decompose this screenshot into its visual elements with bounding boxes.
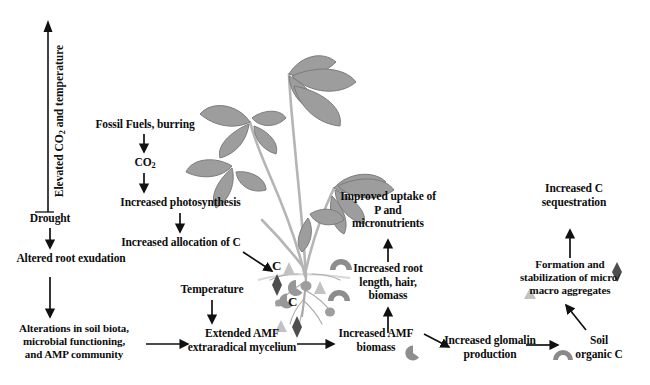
node-increased-root-length: Increased root length, hair, biomass: [344, 262, 432, 303]
node-co2: CO2: [114, 156, 176, 171]
node-soil-organic-c: Soil organic C: [562, 334, 636, 361]
node-temperature: Temperature: [166, 283, 258, 297]
node-formation-stabilization: Formation and stabilization of micro/ ma…: [508, 258, 632, 297]
node-extended-amf: Extended AMF extraradical mycelium: [186, 327, 298, 354]
node-altered-root-exudation: Altered root exudation: [0, 252, 142, 266]
node-increased-c-sequestration: Increased C sequestration: [528, 182, 620, 209]
node-increased-allocation: Increased allocation of C: [92, 236, 270, 250]
node-drought: Drought: [16, 212, 84, 226]
node-fossil-fuels: Fossil Fuels, burring: [76, 118, 214, 132]
figure-canvas: Elevated CO2 and temperature: [0, 0, 650, 385]
node-co2-text: CO: [134, 156, 151, 168]
node-increased-photosynthesis: Increased photosynthesis: [98, 196, 263, 210]
node-increased-amf-biomass: Increased AMF biomass: [334, 327, 418, 354]
node-alterations-soil-biota: Alterations in soil biota, microbial fun…: [0, 322, 148, 361]
node-co2-subscript: 2: [152, 161, 156, 170]
node-increased-glomalin: Increased glomalin production: [444, 334, 536, 361]
node-improved-uptake: Improved uptake of P and micronutrients: [330, 190, 446, 231]
